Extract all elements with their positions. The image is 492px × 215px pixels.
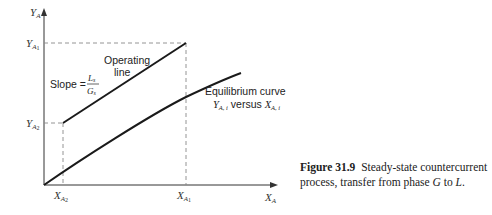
figure-caption: Figure 31.9 Steady-state countercurrent …: [300, 160, 490, 189]
caption-G: G: [433, 176, 441, 188]
slope-numerator: Ls: [87, 73, 96, 83]
equilibrium-label-2: YA, i versus XA, i: [213, 98, 280, 111]
operating-label-2: line: [114, 66, 131, 78]
y-axis-arrow-icon: [41, 8, 47, 16]
slope-denominator: Gs: [87, 86, 97, 96]
operating-label-1: Operating: [104, 54, 150, 66]
tick-x-a1: XA1: [176, 189, 191, 203]
tick-x-a2: XA2: [53, 189, 68, 203]
caption-label: Figure 31.9: [300, 161, 355, 173]
x-axis-label: XA: [264, 191, 277, 205]
equilibrium-label-1: Equilibrium curve: [205, 85, 286, 97]
x-axis-arrow-icon: [270, 182, 278, 188]
y-axis-label: YA: [30, 6, 41, 20]
tick-y-a2: YA2: [26, 117, 39, 131]
tick-y-a1: YA1: [26, 37, 39, 51]
caption-text-2: to: [441, 176, 456, 188]
slope-label: Slope =: [50, 78, 86, 90]
caption-text-3: .: [462, 176, 465, 188]
